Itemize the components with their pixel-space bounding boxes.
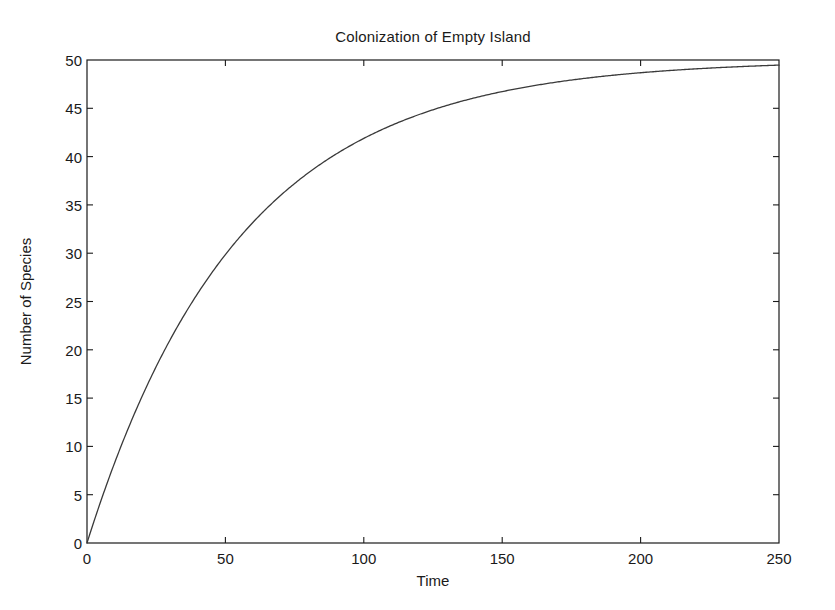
figure-canvas: Colonization of Empty Island Number of S… [0, 0, 835, 610]
colonization-curve [87, 65, 779, 543]
tick-marks [87, 60, 779, 543]
axes-frame [87, 60, 779, 543]
plot-area [0, 0, 835, 610]
